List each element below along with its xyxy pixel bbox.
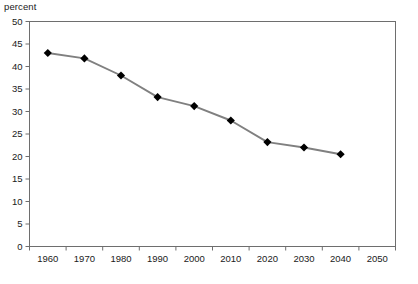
svg-text:2020: 2020	[257, 253, 278, 264]
svg-text:2040: 2040	[330, 253, 351, 264]
svg-text:45: 45	[12, 38, 23, 49]
svg-text:1970: 1970	[74, 253, 95, 264]
svg-text:40: 40	[12, 61, 23, 72]
svg-text:30: 30	[12, 106, 23, 117]
svg-text:25: 25	[12, 128, 23, 139]
svg-text:20: 20	[12, 151, 23, 162]
svg-text:2010: 2010	[220, 253, 241, 264]
svg-text:1960: 1960	[37, 253, 58, 264]
svg-text:10: 10	[12, 196, 23, 207]
svg-text:2050: 2050	[367, 253, 388, 264]
chart-container: percent 05101520253035404550 19601970198…	[0, 0, 418, 284]
svg-text:50: 50	[12, 16, 23, 27]
line-chart-plot: 05101520253035404550 1960197019801990200…	[0, 0, 418, 284]
svg-text:1990: 1990	[147, 253, 168, 264]
data-point-markers	[44, 49, 345, 158]
x-axis-ticks: 1960197019801990200020102020203020402050	[30, 247, 396, 264]
svg-text:2000: 2000	[184, 253, 205, 264]
svg-text:35: 35	[12, 83, 23, 94]
svg-text:1980: 1980	[110, 253, 131, 264]
svg-text:5: 5	[17, 218, 22, 229]
svg-text:15: 15	[12, 173, 23, 184]
y-axis-ticks: 05101520253035404550	[12, 16, 30, 252]
svg-text:0: 0	[17, 241, 22, 252]
svg-text:2030: 2030	[293, 253, 314, 264]
